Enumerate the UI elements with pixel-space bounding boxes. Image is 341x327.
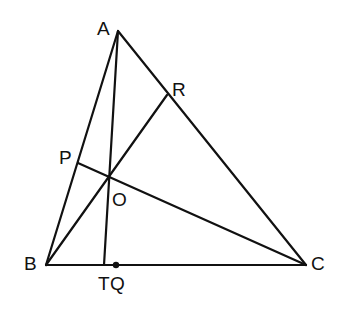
segments — [46, 31, 306, 265]
label-T: T — [98, 273, 110, 294]
label-P: P — [59, 147, 72, 168]
segment-AC — [118, 31, 306, 265]
label-Q: Q — [110, 273, 125, 294]
label-C: C — [311, 253, 325, 274]
segment-CP — [78, 163, 306, 265]
point-Q-dot — [113, 262, 119, 268]
label-B: B — [24, 253, 37, 274]
label-A: A — [97, 18, 110, 39]
label-O: O — [112, 189, 127, 210]
label-R: R — [172, 79, 186, 100]
geometry-diagram: A B C P R O T Q — [0, 0, 341, 327]
